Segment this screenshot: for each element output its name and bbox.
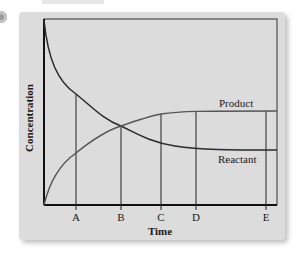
y-axis-label: Concentration: [23, 84, 35, 152]
product-series-label: Product: [219, 97, 253, 109]
x-tick-e: E: [263, 211, 270, 223]
x-tick-d: D: [192, 211, 200, 223]
reactant-series-label: Reactant: [218, 153, 256, 165]
chart-plot: [0, 0, 301, 258]
x-tick-c: C: [157, 211, 164, 223]
x-tick-a: A: [72, 211, 80, 223]
x-tick-b: B: [117, 211, 124, 223]
x-axis-label: Time: [148, 225, 172, 237]
